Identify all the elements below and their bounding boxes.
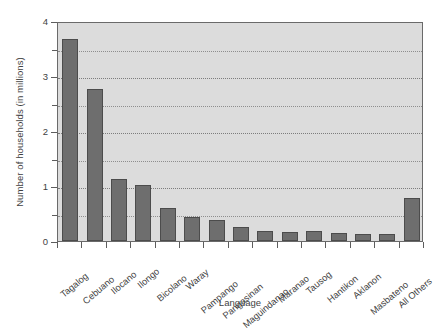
y-tick-label: 1	[26, 181, 48, 192]
bar[interactable]	[331, 233, 347, 241]
bar[interactable]	[233, 227, 249, 241]
x-tick	[203, 242, 204, 248]
bar-slot	[326, 23, 350, 241]
x-tick	[277, 242, 278, 248]
x-tick	[252, 242, 253, 248]
bar[interactable]	[111, 179, 127, 241]
x-tick	[423, 242, 424, 248]
bar-slot	[253, 23, 277, 241]
bar-slot	[180, 23, 204, 241]
plot-area	[57, 22, 423, 242]
x-tick	[399, 242, 400, 248]
bar[interactable]	[209, 220, 225, 241]
y-tick-label: 4	[26, 16, 48, 27]
bar-slot	[82, 23, 106, 241]
bar-slot	[351, 23, 375, 241]
bar[interactable]	[306, 231, 322, 241]
bar[interactable]	[160, 208, 176, 241]
bar[interactable]	[404, 198, 420, 241]
x-tick	[81, 242, 82, 248]
x-tick	[155, 242, 156, 248]
bar[interactable]	[62, 39, 78, 241]
bar-slot	[229, 23, 253, 241]
x-tick	[325, 242, 326, 248]
bar[interactable]	[282, 232, 298, 241]
bar[interactable]	[257, 231, 273, 241]
bar[interactable]	[379, 234, 395, 241]
x-tick	[374, 242, 375, 248]
x-axis-title: Language	[57, 297, 423, 308]
bar[interactable]	[135, 185, 151, 241]
x-tick	[228, 242, 229, 248]
bar-slot	[400, 23, 424, 241]
bars-group	[58, 23, 422, 241]
x-tick-label: Ilongo	[155, 250, 181, 274]
bar[interactable]	[184, 217, 200, 241]
x-tick	[301, 242, 302, 248]
x-tick	[350, 242, 351, 248]
x-tick	[57, 242, 58, 248]
bar-slot	[375, 23, 399, 241]
bar[interactable]	[355, 234, 371, 241]
y-tick-label: 0	[26, 236, 48, 247]
y-tick-label: 2	[26, 126, 48, 137]
x-tick	[130, 242, 131, 248]
bar-slot	[107, 23, 131, 241]
x-tick	[179, 242, 180, 248]
x-tick	[106, 242, 107, 248]
bar-slot	[58, 23, 82, 241]
bar-slot	[204, 23, 228, 241]
bar-slot	[302, 23, 326, 241]
bar-slot	[278, 23, 302, 241]
bar-slot	[131, 23, 155, 241]
bar-slot	[156, 23, 180, 241]
bar[interactable]	[87, 89, 103, 241]
y-tick-label: 3	[26, 71, 48, 82]
